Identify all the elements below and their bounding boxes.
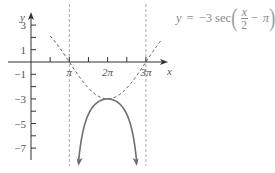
equation-fraction: x 2 [241,6,248,31]
x-axis-label: x [166,65,172,77]
x-tick-label: π [67,66,73,78]
curve-end-arrows [77,158,139,166]
x-tick-label: 3π [139,66,152,78]
y-tick-label: 3 [21,19,27,31]
y-tick-label: 1 [21,44,27,56]
equation-lhs: y [176,11,182,26]
arrow-down-icon [77,158,83,166]
fraction-denominator: 2 [241,19,247,31]
y-tick-label: −1 [14,68,26,80]
equation-coefficient: −3 sec [199,11,231,26]
x-tick-label: 2π [102,66,114,78]
y-tick-label: −7 [14,142,26,154]
y-tick-label: −3 [14,93,26,105]
y-ticks: 31−1−3−5−7 [14,19,36,154]
arrow-down-icon [133,158,139,166]
equation-pi: π [263,11,269,26]
left-paren-icon: ( [231,5,237,31]
y-tick-label: −5 [14,118,26,130]
fraction-numerator: x [241,6,248,19]
right-paren-icon: ) [269,5,275,31]
equation-label: y = −3 sec ( x 2 − π ) [176,3,275,33]
equation-minus: − [251,11,258,26]
equation-equals: = [187,11,194,26]
axes: x y [8,11,172,160]
secant-curve [78,99,136,163]
